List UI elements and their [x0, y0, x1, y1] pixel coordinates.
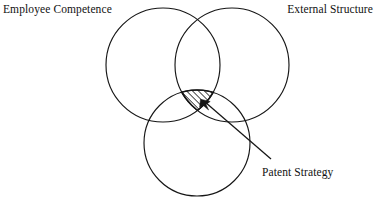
label-employee-competence: Employee Competence	[3, 3, 112, 16]
venn-diagram-figure: Employee Competence External Structure P…	[0, 0, 377, 214]
patent-strategy-leader-line	[205, 102, 271, 159]
triple-intersection-region	[150, 55, 250, 145]
label-external-structure: External Structure	[287, 3, 373, 16]
hatch-fill	[150, 55, 250, 145]
venn-diagram-canvas	[0, 0, 377, 214]
label-patent-strategy: Patent Strategy	[262, 166, 333, 179]
